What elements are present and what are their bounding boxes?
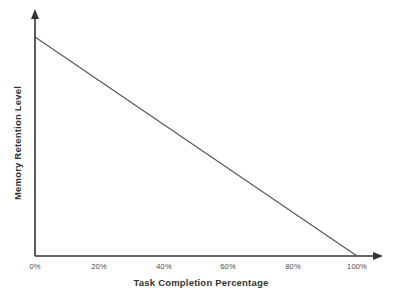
x-axis-title: Task Completion Percentage — [0, 277, 402, 288]
chart-plot-area — [0, 0, 402, 299]
x-axis-arrow-icon — [373, 252, 383, 260]
x-tick-label-1: 20% — [91, 262, 106, 272]
chart-figure: 0% 20% 40% 60% 80% 100% Task Completion … — [0, 0, 402, 299]
x-tick-label-3: 60% — [220, 262, 235, 272]
x-tick-label-4: 80% — [285, 262, 300, 272]
x-tick-label-0: 0% — [29, 262, 40, 272]
x-tick-label-2: 40% — [156, 262, 171, 272]
y-axis-title: Memory Retention Level — [12, 86, 23, 200]
x-tick-label-5: 100% — [347, 262, 367, 272]
y-axis-arrow-icon — [31, 9, 39, 19]
data-line-memory-retention — [35, 37, 357, 256]
